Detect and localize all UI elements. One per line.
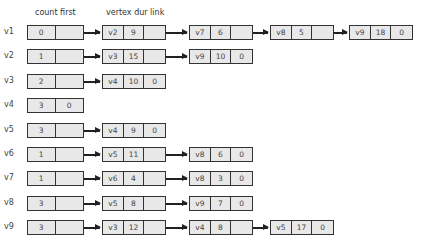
- link-cell: [144, 197, 165, 210]
- head-node: 1: [27, 171, 84, 186]
- vertex-label: v6: [4, 149, 22, 158]
- vertex-cell: v5: [271, 221, 292, 234]
- edge-node: v4100: [102, 74, 166, 89]
- count-cell: 2: [28, 75, 56, 88]
- link-arrow-icon: [166, 32, 187, 34]
- vertex-cell: v8: [190, 148, 211, 161]
- edge-node: v860: [189, 147, 253, 162]
- edge-node: v830: [189, 171, 253, 186]
- link-cell: 0: [312, 221, 333, 234]
- count-cell: 1: [28, 50, 56, 63]
- vertex-label: v3: [4, 76, 22, 85]
- first-cell: [56, 124, 83, 137]
- vertex-label: v1: [4, 27, 22, 36]
- count-cell: 1: [28, 148, 56, 161]
- vertex-cell: v4: [190, 221, 211, 234]
- link-arrow-icon: [84, 56, 100, 58]
- edge-node: v48: [189, 220, 253, 235]
- link-cell: 0: [231, 197, 252, 210]
- edge-node: v9100: [189, 49, 253, 64]
- dur-cell: 10: [124, 75, 145, 88]
- vertex-label: v2: [4, 51, 22, 60]
- vertex-cell: v9: [350, 26, 371, 39]
- count-cell: 3: [28, 197, 56, 210]
- vertex-cell: v4: [103, 75, 124, 88]
- head-node: 1: [27, 49, 84, 64]
- edge-node: v9180: [349, 25, 413, 40]
- count-cell: 3: [28, 221, 56, 234]
- edge-node: v58: [102, 196, 166, 211]
- link-arrow-icon: [84, 154, 100, 156]
- head-node: 0: [27, 25, 84, 40]
- link-cell: 0: [231, 172, 252, 185]
- link-cell: [312, 26, 333, 39]
- vertex-label: v7: [4, 173, 22, 182]
- dur-cell: 12: [124, 221, 145, 234]
- first-cell: [56, 172, 83, 185]
- first-cell: [56, 148, 83, 161]
- edge-node: v511: [102, 147, 166, 162]
- first-cell: [56, 50, 83, 63]
- dur-cell: 6: [211, 148, 232, 161]
- dur-cell: 4: [124, 172, 145, 185]
- link-arrow-icon: [166, 227, 187, 229]
- count-cell: 3: [28, 99, 56, 112]
- link-cell: [231, 221, 252, 234]
- link-arrow-icon: [84, 203, 100, 205]
- link-arrow-icon: [334, 32, 347, 34]
- count-cell: 0: [28, 26, 56, 39]
- dur-cell: 7: [211, 197, 232, 210]
- vertex-cell: v4: [103, 124, 124, 137]
- link-cell: [144, 172, 165, 185]
- vertex-label: v5: [4, 125, 22, 134]
- link-cell: 0: [144, 75, 165, 88]
- link-cell: [231, 26, 252, 39]
- vertex-cell: v3: [103, 50, 124, 63]
- node-fields-header: vertex dur link: [106, 8, 164, 17]
- vertex-cell: v8: [190, 172, 211, 185]
- link-cell: [144, 26, 165, 39]
- vertex-cell: v9: [190, 50, 211, 63]
- link-arrow-icon: [166, 56, 187, 58]
- head-node: 3: [27, 196, 84, 211]
- dur-cell: 9: [124, 26, 145, 39]
- vertex-cell: v6: [103, 172, 124, 185]
- link-arrow-icon: [253, 227, 268, 229]
- link-arrow-icon: [84, 227, 100, 229]
- link-arrow-icon: [84, 81, 100, 83]
- link-cell: 0: [231, 148, 252, 161]
- first-cell: [56, 75, 83, 88]
- head-node: 3: [27, 123, 84, 138]
- head-node: 3: [27, 220, 84, 235]
- vertex-cell: v5: [103, 148, 124, 161]
- link-arrow-icon: [84, 130, 100, 132]
- link-cell: [144, 221, 165, 234]
- link-cell: 0: [391, 26, 412, 39]
- edge-node: v64: [102, 171, 166, 186]
- vertex-label: v8: [4, 198, 22, 207]
- dur-cell: 11: [124, 148, 145, 161]
- head-fields-header: count first: [35, 8, 76, 17]
- first-cell: 0: [56, 99, 83, 112]
- vertex-cell: v8: [271, 26, 292, 39]
- link-cell: [144, 50, 165, 63]
- dur-cell: 8: [124, 197, 145, 210]
- dur-cell: 9: [124, 124, 145, 137]
- dur-cell: 10: [211, 50, 232, 63]
- link-arrow-icon: [84, 178, 100, 180]
- link-arrow-icon: [166, 178, 187, 180]
- edge-node: v315: [102, 49, 166, 64]
- edge-node: v76: [189, 25, 253, 40]
- link-arrow-icon: [253, 32, 268, 34]
- vertex-cell: v3: [103, 221, 124, 234]
- first-cell: [56, 197, 83, 210]
- vertex-cell: v7: [190, 26, 211, 39]
- edge-node: v312: [102, 220, 166, 235]
- edge-node: v490: [102, 123, 166, 138]
- dur-cell: 17: [292, 221, 313, 234]
- count-cell: 3: [28, 124, 56, 137]
- link-cell: 0: [231, 50, 252, 63]
- head-node: 2: [27, 74, 84, 89]
- dur-cell: 3: [211, 172, 232, 185]
- vertex-label: v4: [4, 100, 22, 109]
